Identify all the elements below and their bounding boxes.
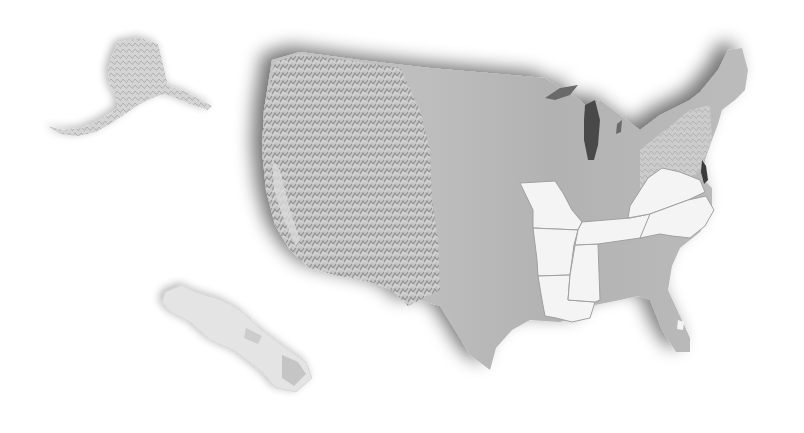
hawaii-inset [162, 285, 312, 392]
alaska-landmass [48, 38, 212, 136]
alaska-inset [48, 38, 212, 136]
lake-okeechobee [677, 320, 684, 330]
us-shaded-relief-map [0, 0, 804, 433]
contiguous-us [262, 48, 748, 370]
